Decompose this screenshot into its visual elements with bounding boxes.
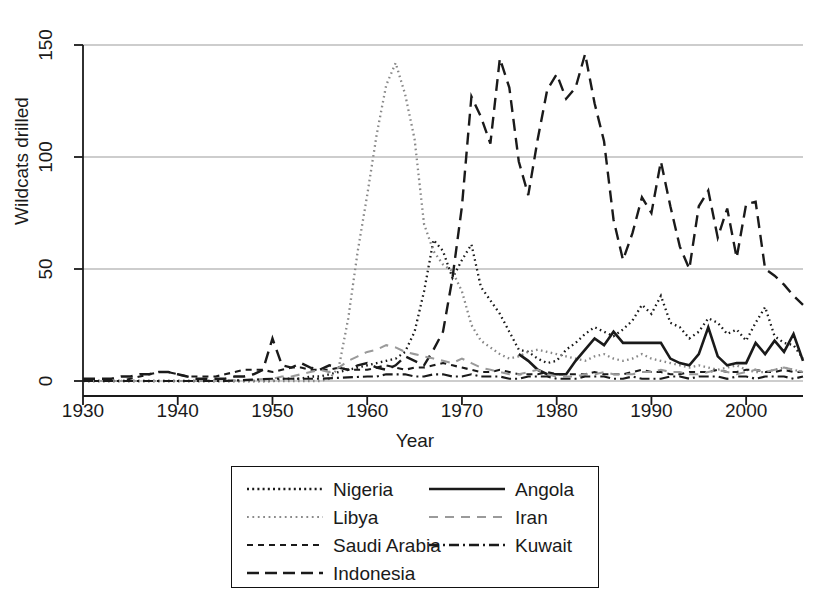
- x-axis-title: Year: [0, 430, 830, 452]
- series-line-indonesia: [83, 54, 803, 379]
- legend-sample-dotted-dark: [246, 479, 324, 499]
- legend-swatch: [428, 535, 506, 555]
- series-line-angola: [519, 327, 803, 374]
- axis-lines: [83, 45, 803, 396]
- chart-page: Wildcats drilled Year 050100150 19301940…: [0, 0, 830, 612]
- x-tick-label: 1930: [48, 400, 118, 422]
- legend-item-iran[interactable]: Iran: [428, 503, 574, 531]
- y-tick-label: 150: [35, 21, 57, 69]
- legend-swatch: [246, 479, 324, 499]
- legend-item-libya[interactable]: Libya: [246, 503, 441, 531]
- chart-legend: NigeriaLibyaSaudi ArabiaIndonesia Angola…: [231, 466, 599, 588]
- legend-swatch: [428, 507, 506, 527]
- legend-label: Nigeria: [333, 480, 393, 499]
- legend-sample-dashed-short: [246, 535, 324, 555]
- y-tick-marks: [74, 45, 83, 381]
- legend-sample-dotted-gray: [246, 507, 324, 527]
- x-tick-label: 1960: [332, 400, 402, 422]
- y-tick-label: 0: [35, 357, 57, 405]
- legend-label: Indonesia: [333, 564, 415, 583]
- legend-item-angola[interactable]: Angola: [428, 475, 574, 503]
- legend-sample-dash-dot: [428, 535, 506, 555]
- series-line-libya: [83, 63, 803, 381]
- data-series-group: [83, 54, 803, 381]
- legend-column-left: NigeriaLibyaSaudi ArabiaIndonesia: [246, 475, 441, 587]
- x-tick-label: 1990: [616, 400, 686, 422]
- legend-swatch: [246, 535, 324, 555]
- x-tick-label: 1970: [427, 400, 497, 422]
- legend-label: Saudi Arabia: [333, 536, 441, 555]
- legend-label: Iran: [515, 508, 548, 527]
- x-tick-label: 1950: [237, 400, 307, 422]
- legend-item-nigeria[interactable]: Nigeria: [246, 475, 441, 503]
- legend-label: Libya: [333, 508, 378, 527]
- legend-item-saudi-arabia[interactable]: Saudi Arabia: [246, 531, 441, 559]
- legend-column-right: AngolaIranKuwait: [428, 475, 574, 559]
- y-axis-title: Wildcats drilled: [11, 81, 33, 241]
- legend-label: Kuwait: [515, 536, 572, 555]
- legend-item-kuwait[interactable]: Kuwait: [428, 531, 574, 559]
- legend-swatch: [246, 507, 324, 527]
- x-tick-label: 1980: [522, 400, 592, 422]
- legend-swatch: [428, 479, 506, 499]
- legend-item-indonesia[interactable]: Indonesia: [246, 559, 441, 587]
- x-tick-label: 2000: [711, 400, 781, 422]
- y-tick-label: 100: [35, 133, 57, 181]
- legend-label: Angola: [515, 480, 574, 499]
- legend-sample-dashed-gray: [428, 507, 506, 527]
- y-tick-label: 50: [35, 245, 57, 293]
- legend-sample-dashed-long: [246, 563, 324, 583]
- legend-swatch: [246, 563, 324, 583]
- legend-sample-solid: [428, 479, 506, 499]
- x-tick-label: 1940: [143, 400, 213, 422]
